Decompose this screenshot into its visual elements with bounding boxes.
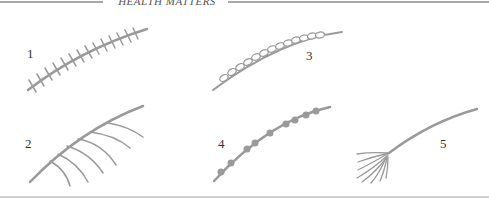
figure-2-label: 2: [25, 136, 32, 152]
bottom-rule: [0, 196, 489, 198]
figure-2-arc-branches: [30, 106, 143, 186]
figure-4-label: 4: [218, 136, 225, 152]
figure-5-frayed-end: [357, 109, 477, 183]
figure-5-label: 5: [440, 136, 447, 152]
figure-1-crossed-ticks: [28, 28, 147, 92]
figure-4-beaded-dots: [214, 107, 330, 181]
suture-diagram: [0, 0, 489, 198]
figure-1-label: 1: [27, 46, 34, 62]
figure-3-chain-links: [213, 31, 342, 90]
figure-3-label: 3: [306, 48, 313, 64]
